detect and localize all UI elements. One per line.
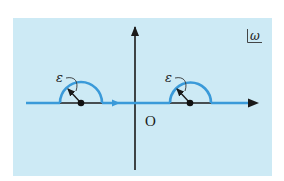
- right-epsilon-label: ε: [165, 70, 172, 85]
- left-pole: [78, 100, 85, 107]
- right-pole: [187, 100, 194, 107]
- panel-background: [13, 18, 272, 176]
- contour-diagram: ε ε O ω: [0, 0, 284, 181]
- left-epsilon-label: ε: [56, 70, 63, 85]
- plane-label: ω: [250, 29, 260, 43]
- origin-label: O: [145, 113, 156, 129]
